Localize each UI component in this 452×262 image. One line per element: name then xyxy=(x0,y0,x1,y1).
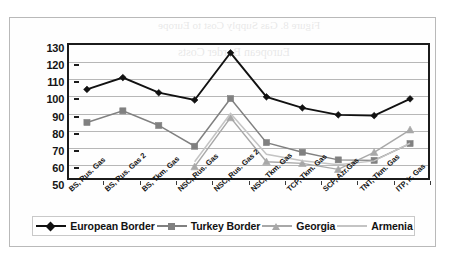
y-axis-tick-label: 90 xyxy=(52,112,64,122)
triangle-marker-icon xyxy=(272,223,280,230)
legend-label: Turkey Border xyxy=(191,220,261,232)
y-axis-tick-label: 50 xyxy=(52,180,64,190)
chart-legend: European BorderTurkey BorderGeorgiaArmen… xyxy=(32,216,415,236)
legend-label: Georgia xyxy=(296,220,335,232)
legend-item-turkey-border[interactable]: Turkey Border xyxy=(155,220,261,232)
scan-bleed-text-top: Figure 8. Gas Supply Cost to Europe xyxy=(158,19,320,31)
y-axis-tick-label: 130 xyxy=(47,43,64,53)
x-axis-tick-mark xyxy=(430,181,431,185)
x-axis-tick-mark xyxy=(357,181,358,185)
y-axis-tick-label: 70 xyxy=(52,146,64,156)
x-axis-tick-mark xyxy=(249,181,250,185)
y-axis-tick-label: 100 xyxy=(47,94,64,104)
x-axis-tick-mark xyxy=(285,181,286,185)
legend-item-european-border[interactable]: European Border xyxy=(34,220,154,232)
series-marker xyxy=(84,119,90,125)
square-marker-icon xyxy=(168,223,175,230)
series-marker xyxy=(263,140,269,146)
x-axis-tick-mark xyxy=(140,181,141,185)
y-axis-tick-label: 80 xyxy=(52,129,64,139)
legend-label: Armenia xyxy=(371,220,412,232)
series-line xyxy=(87,53,410,116)
legend-swatch xyxy=(157,220,187,232)
series-marker xyxy=(299,105,306,112)
series-marker xyxy=(370,149,378,156)
legend-item-georgia[interactable]: Georgia xyxy=(260,220,335,232)
series-marker xyxy=(119,74,126,81)
legend-label: European Border xyxy=(70,220,154,232)
y-axis-ticks: 1301201101009080706050 xyxy=(22,36,66,186)
diamond-marker-icon xyxy=(46,222,56,232)
series-marker xyxy=(156,122,162,128)
series-marker xyxy=(335,157,341,163)
series-marker xyxy=(406,126,414,133)
series-marker xyxy=(371,112,378,119)
series-marker xyxy=(299,149,305,155)
series-marker xyxy=(227,96,233,102)
series-line xyxy=(195,113,410,164)
series-marker xyxy=(84,86,91,93)
legend-item-armenia[interactable]: Armenia xyxy=(335,220,412,232)
y-axis-tick-label: 120 xyxy=(47,60,64,70)
legend-swatch xyxy=(262,220,292,232)
series-marker xyxy=(120,108,126,114)
chart-frame: Figure 8. Gas Supply Cost to Europe Euro… xyxy=(9,17,436,247)
y-axis-tick-label: 110 xyxy=(47,77,64,87)
legend-swatch xyxy=(337,220,367,232)
x-axis-tick-mark xyxy=(394,181,395,185)
y-axis-tick-label: 60 xyxy=(52,163,64,173)
series-marker xyxy=(407,96,414,103)
legend-swatch xyxy=(36,220,66,232)
series-marker xyxy=(192,143,198,149)
series-marker xyxy=(335,112,342,119)
series-marker xyxy=(155,89,162,96)
